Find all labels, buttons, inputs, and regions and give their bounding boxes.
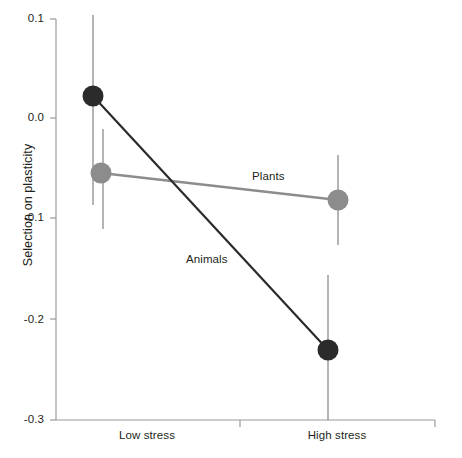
data-point-animals-low-stress [83,86,104,107]
chart-container: Selection on plasticity 0.1 0.0 -0.1 -0.… [0,0,462,458]
x-axis-ticks [240,420,435,427]
series-line-animals [93,96,328,350]
chart-plot-area [0,0,462,458]
series-line-plants [101,173,338,200]
y-axis-ticks [50,19,56,420]
data-point-plants-low-stress [91,163,112,184]
axis-lines [56,19,435,420]
data-point-animals-high-stress [318,340,339,361]
data-point-plants-high-stress [328,190,349,211]
